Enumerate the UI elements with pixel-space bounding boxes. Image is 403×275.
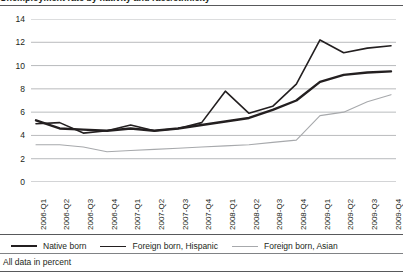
chart-title-text: Unemployment rate by nativity and race/e… <box>0 0 403 3</box>
series-line-foreign-born-hispanic <box>36 40 391 133</box>
x-axis-tick-label: 2007-Q1 <box>134 199 142 230</box>
x-axis-tick-label: 2008-Q1 <box>229 199 237 230</box>
chart-legend: Native bornForeign born, HispanicForeign… <box>0 238 403 254</box>
x-axis-tick-label: 2007-Q3 <box>182 199 190 230</box>
x-axis-labels: 2006-Q12006-Q22006-Q32006-Q42007-Q12007-… <box>31 184 396 232</box>
plot-area <box>31 19 396 182</box>
gridlines <box>31 19 396 182</box>
y-axis-tick-label: 12 <box>3 38 25 47</box>
y-axis-tick-label: 14 <box>3 15 25 24</box>
x-axis-tick-label: 2009-Q1 <box>324 199 332 230</box>
plot-svg <box>31 19 396 182</box>
legend-line-swatch-icon <box>11 245 37 247</box>
x-axis-tick-label: 2008-Q2 <box>253 199 261 230</box>
series-line-native-born <box>36 71 391 130</box>
x-axis-tick-label: 2009-Q4 <box>395 199 403 230</box>
legend-item-label: Foreign born, Hispanic <box>132 242 218 251</box>
y-axis-tick-label: 4 <box>3 131 25 140</box>
x-axis-tick-label: 2006-Q2 <box>63 199 71 230</box>
y-axis-tick-label: 0 <box>3 178 25 187</box>
x-axis-tick-label: 2008-Q4 <box>300 199 308 230</box>
x-axis-tick-label: 2008-Q3 <box>276 199 284 230</box>
legend-item[interactable]: Foreign born, Asian <box>232 242 338 251</box>
chart-footnote: All data in percent <box>3 257 71 267</box>
legend-line-swatch-icon <box>232 246 258 247</box>
header-divider <box>0 5 403 6</box>
legend-divider <box>0 253 403 254</box>
y-axis-tick-label: 2 <box>3 155 25 164</box>
x-axis-tick-label: 2006-Q3 <box>87 199 95 230</box>
x-axis-divider <box>0 234 403 235</box>
x-axis-tick-label: 2009-Q2 <box>347 199 355 230</box>
x-axis-tick-label: 2007-Q2 <box>158 199 166 230</box>
y-axis-tick-label: 8 <box>3 85 25 94</box>
series-lines <box>36 40 391 152</box>
legend-item[interactable]: Foreign born, Hispanic <box>100 242 218 251</box>
x-axis-tick-label: 2007-Q4 <box>205 199 213 230</box>
y-axis-tick-label: 10 <box>3 62 25 71</box>
x-axis-tick-label: 2006-Q4 <box>111 199 119 230</box>
legend-item[interactable]: Native born <box>11 242 86 251</box>
legend-item-label: Native born <box>43 242 86 251</box>
legend-item-label: Foreign born, Asian <box>264 242 338 251</box>
footer-divider <box>0 271 403 272</box>
x-axis-tick-label: 2006-Q1 <box>40 199 48 230</box>
chart-figure: Unemployment rate by nativity and race/e… <box>0 0 403 275</box>
legend-line-swatch-icon <box>100 246 126 247</box>
x-axis-tick-label: 2009-Q3 <box>371 199 379 230</box>
y-axis-tick-label: 6 <box>3 108 25 117</box>
